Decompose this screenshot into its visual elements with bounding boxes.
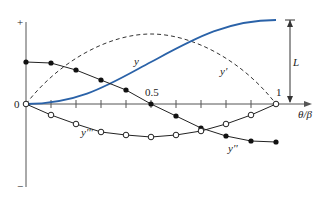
y-prime-label: y' <box>219 65 228 77</box>
one-label: 1 <box>276 86 282 98</box>
x-axis-arrow-icon <box>304 101 312 107</box>
zero-label: 0 <box>14 98 20 110</box>
y-triple-prime-label: y''' <box>80 126 94 138</box>
y-label: y <box>133 55 139 67</box>
half-label: 0.5 <box>145 86 159 98</box>
minus-label: − <box>17 180 23 192</box>
plus-label: + <box>17 16 23 28</box>
chart: + − 0 0.5 1 θ/β L y y' y'' y''' <box>0 0 328 201</box>
L-label: L <box>292 56 299 68</box>
arrow-down-icon <box>287 96 293 103</box>
y-double-prime-markers <box>23 59 278 144</box>
arrow-up-icon <box>287 20 293 27</box>
y-double-prime-label: y'' <box>227 142 238 154</box>
series-y-triple-prime <box>26 104 276 137</box>
axis-label: θ/β <box>298 108 312 120</box>
